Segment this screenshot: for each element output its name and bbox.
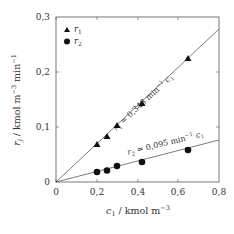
y-tick-labels: 0 0,1 0,2 0,3 [36, 12, 51, 187]
x-tick-label: 0,6 [171, 187, 186, 197]
x-tick-label: 0,4 [131, 187, 146, 197]
y-tick-label: 0,1 [36, 122, 50, 132]
y-tick-label: 0,2 [36, 67, 50, 77]
y-axis-label: rj / kmol m−3 min−1 [10, 54, 24, 146]
x-tick-labels: 0 0,2 0,4 0,6 0,8 [53, 187, 226, 197]
circle-marker [114, 163, 121, 170]
circle-marker [139, 159, 146, 166]
y-tick-label: 0 [44, 177, 50, 187]
circle-marker [94, 169, 101, 176]
chart: 0 0,2 0,4 0,6 0,8 0 0,1 0,2 0,3 c1 / kmo… [0, 0, 234, 234]
legend-label-r1: r1 [74, 24, 82, 35]
circle-marker [104, 167, 111, 174]
legend: r1 r2 [64, 24, 82, 47]
triangle-marker [94, 141, 101, 147]
legend-triangle-icon [64, 27, 70, 32]
y-tick-label: 0,3 [36, 12, 51, 22]
y-ticks [56, 72, 219, 127]
legend-label-r2: r2 [74, 36, 82, 47]
x-tick-label: 0,2 [90, 187, 104, 197]
x-tick-label: 0,8 [212, 187, 227, 197]
x-axis-label: c1 / kmol m−3 [106, 204, 170, 218]
circle-marker [185, 147, 192, 154]
x-tick-label: 0 [53, 187, 59, 197]
legend-circle-icon [64, 39, 70, 45]
